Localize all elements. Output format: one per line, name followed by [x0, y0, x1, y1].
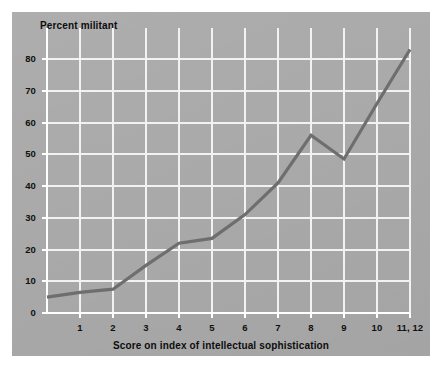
chart-figure: Percent militant Score on index of intel…	[0, 0, 442, 374]
data-series-line	[47, 50, 410, 298]
data-line-group	[47, 50, 410, 298]
gridlines-group	[47, 28, 410, 313]
chart-plot-svg	[0, 0, 442, 374]
axes-group	[42, 28, 410, 318]
